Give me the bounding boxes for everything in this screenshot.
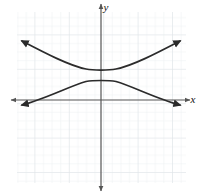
- y-axis-label: y: [103, 1, 109, 13]
- graph-figure: x y: [0, 0, 203, 195]
- coordinate-plane-svg: x y: [0, 0, 203, 195]
- x-axis-label: x: [190, 93, 196, 105]
